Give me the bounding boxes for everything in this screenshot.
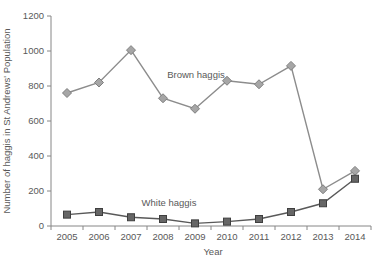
axis-lines — [51, 16, 371, 226]
y-tick-label: 1000 — [23, 45, 44, 56]
brown-haggis-marker — [255, 80, 264, 89]
white-haggis-marker — [128, 214, 135, 221]
white-haggis-marker — [224, 218, 231, 225]
white-haggis-marker — [64, 211, 71, 218]
x-tick-label: 2007 — [120, 231, 141, 242]
white-haggis-marker — [288, 209, 295, 216]
x-tick-label: 2014 — [344, 231, 365, 242]
white-haggis-line — [67, 179, 355, 224]
brown-haggis-marker — [351, 166, 360, 175]
x-axis-ticks: 2005200620072008200920102011201220132014 — [51, 226, 371, 242]
axes — [51, 16, 371, 226]
chart-svg: 020040060080010001200 200520062007200820… — [0, 0, 383, 265]
brown-haggis-label: Brown haggis — [167, 69, 225, 80]
x-axis-title: Year — [203, 246, 222, 257]
y-tick-label: 800 — [28, 80, 44, 91]
x-tick-label: 2013 — [312, 231, 333, 242]
y-tick-label: 600 — [28, 115, 44, 126]
x-tick-label: 2011 — [249, 231, 269, 242]
brown-haggis-marker — [159, 94, 168, 103]
white-haggis-marker — [192, 220, 199, 227]
white-haggis-marker — [160, 216, 167, 223]
y-axis-ticks: 020040060080010001200 — [23, 10, 51, 231]
x-tick-label: 2008 — [152, 231, 173, 242]
white-haggis-marker — [352, 175, 359, 182]
y-tick-label: 400 — [28, 150, 44, 161]
x-tick-label: 2010 — [216, 231, 237, 242]
haggis-population-chart: 020040060080010001200 200520062007200820… — [0, 0, 383, 265]
white-haggis-marker — [320, 200, 327, 207]
x-tick-label: 2009 — [184, 231, 205, 242]
x-tick-label: 2005 — [56, 231, 77, 242]
white-haggis-marker — [96, 209, 103, 216]
x-tick-label: 2006 — [88, 231, 109, 242]
brown-haggis-marker — [63, 89, 72, 98]
brown-haggis-marker — [287, 61, 296, 70]
y-tick-label: 200 — [28, 185, 44, 196]
x-tick-label: 2012 — [280, 231, 301, 242]
brown-haggis-marker — [319, 185, 328, 194]
y-axis-title: Number of haggis in St Andrews' Populati… — [1, 28, 12, 213]
y-tick-label: 0 — [39, 220, 44, 231]
series-inline-labels: Brown haggisWhite haggis — [142, 69, 225, 208]
white-haggis-marker — [256, 216, 263, 223]
white-haggis-label: White haggis — [142, 197, 197, 208]
y-tick-label: 1200 — [23, 10, 44, 21]
